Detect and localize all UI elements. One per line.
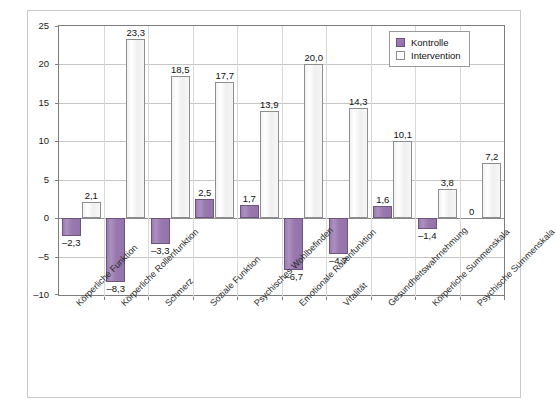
legend-swatch-intervention xyxy=(396,51,405,60)
bar-value-label: –2,3 xyxy=(54,237,89,248)
legend-item-kontrolle: Kontrolle xyxy=(396,36,461,49)
y-axis-tick-label: 5 xyxy=(0,173,49,184)
y-axis-tick xyxy=(55,257,59,258)
y-axis-tick xyxy=(55,64,59,65)
bar-intervention[interactable] xyxy=(304,64,323,218)
y-axis-tick xyxy=(55,26,59,27)
y-axis-tick-label: –5 xyxy=(0,250,49,261)
y-axis-tick-label: 15 xyxy=(0,96,49,107)
bar-kontrolle[interactable] xyxy=(329,218,348,254)
bar-intervention[interactable] xyxy=(393,141,412,219)
bar-kontrolle[interactable] xyxy=(195,199,214,218)
x-axis-tick xyxy=(504,295,505,300)
legend-swatch-kontrolle xyxy=(396,38,405,47)
category-separator xyxy=(193,26,194,297)
legend-item-intervention: Intervention xyxy=(396,49,461,62)
bar-value-label: –1,4 xyxy=(410,230,445,241)
y-axis-tick xyxy=(55,294,59,295)
bar-kontrolle[interactable] xyxy=(373,206,392,218)
bar-kontrolle[interactable] xyxy=(62,218,81,236)
y-axis-tick xyxy=(55,103,59,104)
legend-label-kontrolle: Kontrolle xyxy=(411,37,449,48)
category-separator xyxy=(148,26,149,297)
category-separator xyxy=(104,26,105,297)
chart-legend: Kontrolle Intervention xyxy=(389,31,470,67)
y-axis-tick-label: 25 xyxy=(0,20,49,31)
bar-kontrolle[interactable] xyxy=(240,205,259,218)
y-axis-tick xyxy=(55,218,59,219)
category-separator xyxy=(282,26,283,297)
bar-intervention[interactable] xyxy=(260,111,279,218)
bar-intervention[interactable] xyxy=(82,202,101,218)
legend-label-intervention: Intervention xyxy=(411,50,461,61)
y-axis-tick-label: –10 xyxy=(0,289,49,300)
y-axis-tick-label: 0 xyxy=(0,212,49,223)
y-axis-tick-label: 20 xyxy=(0,58,49,69)
category-separator xyxy=(371,26,372,297)
category-separator xyxy=(237,26,238,297)
y-axis-tick xyxy=(55,180,59,181)
bar-intervention[interactable] xyxy=(126,39,145,218)
bar-kontrolle[interactable] xyxy=(418,218,437,229)
bar-kontrolle[interactable] xyxy=(151,218,170,243)
bar-intervention[interactable] xyxy=(482,163,501,218)
y-axis-tick-label: 10 xyxy=(0,135,49,146)
bar-value-label: 7,2 xyxy=(474,151,509,162)
y-axis-tick xyxy=(55,141,59,142)
